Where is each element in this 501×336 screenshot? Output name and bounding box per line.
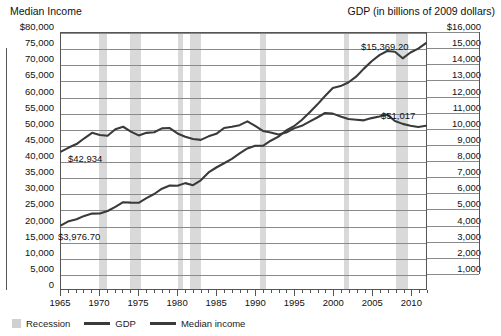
y-axis-right-tick-label: $16,000 [429, 21, 481, 32]
x-axis-tick [404, 290, 405, 293]
x-axis-tick [365, 290, 366, 293]
x-axis-tick [349, 290, 350, 293]
y-axis-left-tick-label: 65,000 [0, 69, 54, 80]
x-axis-tick-label: 2005 [352, 297, 392, 308]
x-axis-tick-label: 1970 [79, 297, 119, 308]
y-axis-right-rule [427, 193, 479, 194]
left-axis-border [6, 48, 7, 290]
y-axis-right-rule [427, 64, 479, 65]
y-axis-right-rule [427, 32, 479, 33]
y-axis-left-tick-label: 20,000 [0, 215, 54, 226]
x-axis-tick [232, 290, 233, 293]
y-axis-left-tick-label: 70,000 [0, 53, 54, 64]
gdp-line-swatch-icon [84, 322, 110, 325]
x-axis-tick [380, 290, 381, 293]
y-axis-left-tick-label: 40,000 [0, 150, 54, 161]
x-axis-tick [169, 290, 170, 293]
x-axis-tick [76, 290, 77, 293]
x-axis-tick [294, 290, 295, 296]
y-axis-right-tick-label: 1,000 [429, 263, 481, 274]
x-axis-tick-label: 2010 [391, 297, 431, 308]
x-axis-tick [83, 290, 84, 293]
y-axis-left-tick-label: 5,000 [0, 263, 54, 274]
x-axis-tick [60, 290, 61, 296]
y-axis-left-tick-label: 45,000 [0, 134, 54, 145]
median-income-line-swatch-icon [150, 322, 176, 325]
x-axis-tick-label: 1990 [235, 297, 275, 308]
x-axis-tick [333, 290, 334, 296]
y-axis-right-tick-label: 5,000 [429, 198, 481, 209]
x-axis-tick-label: 1985 [196, 297, 236, 308]
legend-item-recession: Recession [12, 318, 70, 329]
legend: Recession GDP Median income [12, 318, 253, 329]
y-axis-right-rule [427, 177, 479, 178]
y-axis-right-rule [427, 48, 479, 49]
x-axis-tick [341, 290, 342, 293]
recession-swatch-icon [12, 319, 21, 328]
y-axis-right-tick-label: 12,000 [429, 86, 481, 97]
y-axis-right-rule [427, 113, 479, 114]
left-axis-title: Median Income [10, 5, 82, 17]
x-axis-tick [201, 290, 202, 293]
y-axis-left-tick-label: 30,000 [0, 182, 54, 193]
y-axis-right-tick-label: 3,000 [429, 231, 481, 242]
x-axis-tick [302, 290, 303, 293]
x-axis-tick [193, 290, 194, 293]
y-axis-right-rule [427, 129, 479, 130]
x-axis-tick [255, 290, 256, 296]
x-axis-tick [130, 290, 131, 293]
y-axis-right-rule [427, 161, 479, 162]
y-axis-left-tick-label: $80,000 [0, 21, 54, 32]
annotation-gdp-end: $15,369.20 [361, 41, 409, 52]
x-axis-tick [286, 290, 287, 293]
x-axis-tick-label: 1995 [274, 297, 314, 308]
x-axis-tick [154, 290, 155, 293]
y-axis-right-tick-label: 14,000 [429, 53, 481, 64]
y-axis-left-tick-label: 35,000 [0, 166, 54, 177]
x-axis-tick [419, 290, 420, 293]
x-axis-tick [396, 290, 397, 293]
y-axis-right-rule [427, 97, 479, 98]
legend-label-recession: Recession [26, 318, 70, 329]
x-axis-tick [99, 290, 100, 296]
y-axis-right-tick-label: 8,000 [429, 150, 481, 161]
x-axis-tick [388, 290, 389, 293]
x-axis-tick [122, 290, 123, 293]
chart-root: Median Income GDP (in billions of 2009 d… [0, 0, 501, 336]
x-axis-tick-label: 1980 [157, 297, 197, 308]
legend-label-median-income: Median income [181, 318, 245, 329]
y-axis-right-rule [427, 145, 479, 146]
y-axis-left-tick-label: 55,000 [0, 102, 54, 113]
x-axis-tick [162, 290, 163, 293]
median-income-line [61, 113, 426, 152]
y-axis-left-tick-label: 15,000 [0, 231, 54, 242]
y-axis-left-tick-label: 50,000 [0, 118, 54, 129]
x-axis-tick [107, 290, 108, 293]
y-axis-right-tick-label: 6,000 [429, 182, 481, 193]
x-axis-tick [372, 290, 373, 296]
x-axis-tick [146, 290, 147, 293]
x-axis-tick [279, 290, 280, 293]
y-axis-right-tick-label: 10,000 [429, 118, 481, 129]
y-axis-left-tick-label: 25,000 [0, 198, 54, 209]
y-axis-right-rule [427, 226, 479, 227]
y-axis-left-tick-label: 0 [0, 279, 54, 290]
x-axis-tick [185, 290, 186, 293]
gdp-line [61, 43, 426, 225]
y-axis-right-tick-label: 11,000 [429, 102, 481, 113]
y-axis-right-rule [427, 209, 479, 210]
legend-item-median-income: Median income [150, 318, 245, 329]
x-axis-tick [177, 290, 178, 296]
right-axis-border [479, 32, 480, 274]
y-axis-right-tick-label: 2,000 [429, 247, 481, 258]
x-axis-tick [115, 290, 116, 293]
series-lines [61, 33, 426, 289]
y-axis-right-rule [427, 258, 479, 259]
y-axis-right-tick-label: 15,000 [429, 37, 481, 48]
annotation-median-start: $42,934 [68, 153, 102, 164]
x-axis-tick [310, 290, 311, 293]
legend-item-gdp: GDP [84, 318, 136, 329]
x-axis-tick [263, 290, 264, 293]
x-axis-tick-label: 2000 [313, 297, 353, 308]
y-axis-right-tick-label: 13,000 [429, 69, 481, 80]
